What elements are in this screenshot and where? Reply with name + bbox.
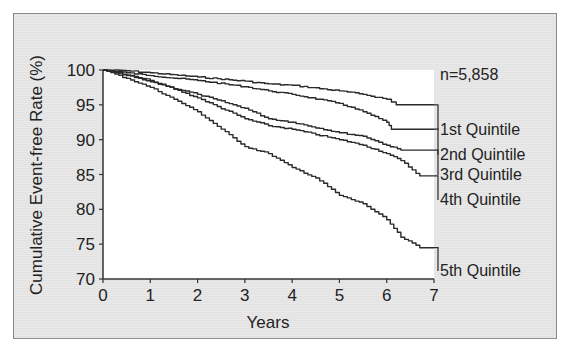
y-tick-label: 95 [76, 96, 95, 115]
leader-line [434, 176, 438, 200]
y-axis-title: Cumulative Event-free Rate (%) [27, 55, 46, 295]
y-tick-label: 90 [76, 131, 95, 150]
x-tick-label: 0 [98, 286, 107, 305]
x-tick-label: 5 [335, 286, 344, 305]
x-axis-title: Years [247, 313, 290, 332]
y-tick-label: 100 [67, 61, 95, 80]
x-tick-label: 6 [382, 286, 391, 305]
survival-chart: 70758085909510001234567 1st Quintile2nd … [0, 0, 577, 358]
y-tick-label: 85 [76, 166, 95, 185]
y-tick-label: 70 [76, 270, 95, 289]
leader-line [434, 105, 438, 130]
x-tick-label: 2 [193, 286, 202, 305]
sample-size-label: n=5,858 [440, 66, 498, 83]
x-tick-label: 3 [240, 286, 249, 305]
legend-label-quintile-2: 2nd Quintile [440, 146, 525, 163]
legend-label-quintile-4: 4th Quintile [440, 191, 521, 208]
legend-label-quintile-5: 5th Quintile [440, 262, 521, 279]
legend-label-quintile-1: 1st Quintile [440, 121, 520, 138]
legend-label-quintile-3: 3rd Quintile [440, 166, 522, 183]
legend: 1st Quintile2nd Quintile3rd Quintile4th … [434, 105, 525, 279]
leader-line [434, 248, 438, 271]
x-tick-label: 4 [287, 286, 296, 305]
leader-line [434, 150, 438, 175]
plot-area [103, 70, 434, 279]
x-tick-label: 1 [146, 286, 155, 305]
x-tick-label: 7 [429, 286, 438, 305]
y-tick-label: 75 [76, 235, 95, 254]
y-tick-label: 80 [76, 200, 95, 219]
